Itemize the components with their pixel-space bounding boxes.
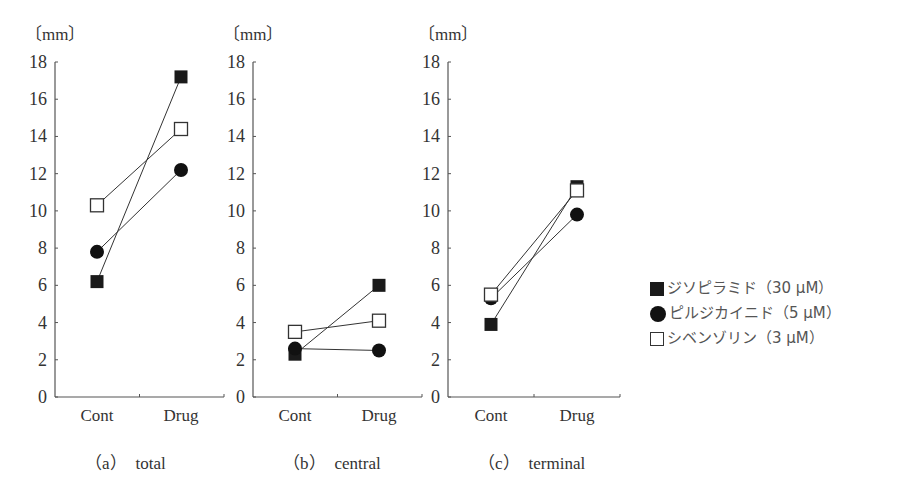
filled-circle-icon — [650, 306, 666, 322]
panel-caption: （c） terminal — [478, 454, 585, 473]
legend: ジソピラミド（30 μM） ピルジカイニド（5 μM） シベンゾリン（3 μM） — [650, 276, 841, 351]
y-tick-label: 0 — [38, 387, 47, 407]
open-square-marker — [175, 123, 188, 136]
y-tick-label: 6 — [38, 275, 47, 295]
chart-panel-3: 024681012141618〔mm〕ContDrug（c） terminal — [418, 25, 620, 473]
series-line — [491, 215, 577, 299]
y-tick-label: 18 — [29, 52, 47, 72]
y-tick-label: 14 — [227, 126, 245, 146]
legend-label: ジソピラミド（30 μM） — [667, 276, 833, 301]
y-tick-label: 6 — [431, 275, 440, 295]
legend-label: ピルジカイニド（5 μM） — [669, 301, 841, 326]
open-square-icon — [650, 332, 664, 346]
chart-panel-1: 024681012141618〔mm〕ContDrug（a） total — [25, 25, 224, 473]
y-tick-label: 8 — [38, 238, 47, 258]
legend-item-cibenzoline: シベンゾリン（3 μM） — [650, 326, 841, 351]
x-tick-label: Drug — [362, 406, 397, 425]
filled-circle-marker — [90, 245, 104, 259]
open-square-marker — [91, 199, 104, 212]
y-tick-label: 18 — [227, 52, 245, 72]
unit-label: 〔mm〕 — [223, 25, 283, 44]
filled-circle-marker — [288, 342, 302, 356]
y-tick-label: 14 — [29, 126, 47, 146]
series-line — [97, 129, 181, 205]
unit-label: 〔mm〕 — [418, 25, 478, 44]
x-tick-label: Drug — [164, 406, 199, 425]
y-tick-label: 2 — [38, 350, 47, 370]
y-tick-label: 18 — [422, 52, 440, 72]
legend-item-disopyramide: ジソピラミド（30 μM） — [650, 276, 841, 301]
y-tick-label: 8 — [236, 238, 245, 258]
x-tick-label: Cont — [80, 406, 113, 425]
x-tick-label: Drug — [560, 406, 595, 425]
y-tick-label: 2 — [236, 350, 245, 370]
open-square-marker — [485, 288, 498, 301]
y-tick-label: 4 — [236, 313, 245, 333]
y-tick-label: 12 — [227, 164, 245, 184]
y-tick-label: 10 — [227, 201, 245, 221]
filled-square-marker — [175, 70, 188, 83]
unit-label: 〔mm〕 — [25, 25, 85, 44]
panel-caption: （b） central — [283, 454, 381, 473]
x-tick-label: Cont — [278, 406, 311, 425]
filled-square-marker — [485, 318, 498, 331]
series-line — [295, 321, 379, 332]
y-tick-label: 10 — [422, 201, 440, 221]
y-tick-label: 0 — [236, 387, 245, 407]
panel-caption: （a） total — [85, 454, 166, 473]
x-tick-label: Cont — [474, 406, 507, 425]
y-tick-label: 6 — [236, 275, 245, 295]
legend-label: シベンゾリン（3 μM） — [667, 326, 824, 351]
open-square-marker — [571, 184, 584, 197]
y-tick-label: 16 — [422, 89, 440, 109]
legend-item-pilsicainide: ピルジカイニド（5 μM） — [650, 301, 841, 326]
y-tick-label: 2 — [431, 350, 440, 370]
series-line — [97, 77, 181, 282]
y-tick-label: 10 — [29, 201, 47, 221]
plot-area: 024681012141618〔mm〕ContDrug（a） total0246… — [0, 0, 910, 489]
y-tick-label: 16 — [227, 89, 245, 109]
series-line — [295, 349, 379, 351]
y-tick-label: 8 — [431, 238, 440, 258]
y-tick-label: 12 — [29, 164, 47, 184]
series-line — [491, 187, 577, 325]
y-tick-label: 4 — [431, 313, 440, 333]
filled-square-icon — [650, 282, 664, 296]
filled-circle-marker — [372, 343, 386, 357]
series-line — [295, 285, 379, 354]
figure: 024681012141618〔mm〕ContDrug（a） total0246… — [0, 0, 910, 489]
series-line — [97, 170, 181, 252]
open-square-marker — [289, 325, 302, 338]
y-tick-label: 12 — [422, 164, 440, 184]
y-tick-label: 4 — [38, 313, 47, 333]
filled-square-marker — [91, 275, 104, 288]
y-tick-label: 14 — [422, 126, 440, 146]
chart-panel-2: 024681012141618〔mm〕ContDrug（b） central — [223, 25, 422, 473]
y-tick-label: 0 — [431, 387, 440, 407]
filled-circle-marker — [174, 163, 188, 177]
y-tick-label: 16 — [29, 89, 47, 109]
open-square-marker — [373, 314, 386, 327]
series-line — [491, 190, 577, 294]
filled-square-marker — [373, 279, 386, 292]
filled-circle-marker — [570, 208, 584, 222]
